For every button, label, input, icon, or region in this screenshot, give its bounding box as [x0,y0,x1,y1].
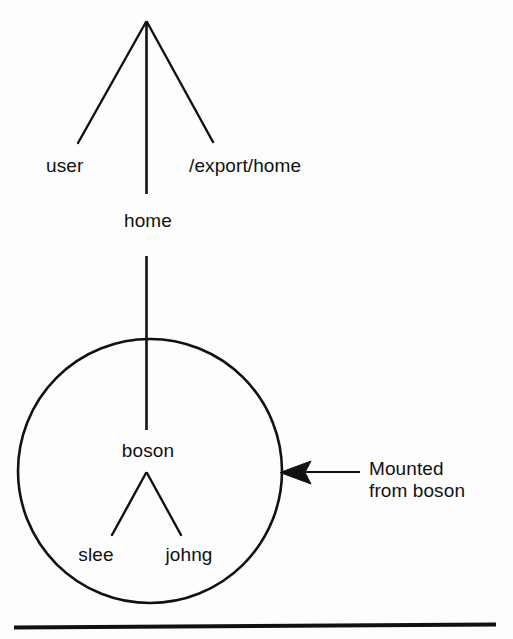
node-label-johng: johng [166,544,213,566]
node-label-home: home [124,210,172,232]
node-label-export-home: /export/home [189,155,301,177]
edge-apex-to-export-home [147,22,213,142]
node-label-slee: slee [78,544,113,566]
node-label-user: user [46,155,83,177]
node-label-boson: boson [122,440,174,462]
edge-boson-to-slee [112,473,146,535]
bottom-rule [14,625,496,628]
edge-boson-to-johng [147,473,181,535]
mount-boundary-circle [18,339,282,603]
diagram-graphics [0,0,513,639]
diagram-canvas: user /export/home home boson slee johng … [0,0,513,639]
annotation-line-2: from boson [369,480,465,502]
annotation-line-1: Mounted [369,458,465,480]
annotation-mounted-from-boson: Mounted from boson [369,458,465,503]
edge-apex-to-user [78,22,146,143]
